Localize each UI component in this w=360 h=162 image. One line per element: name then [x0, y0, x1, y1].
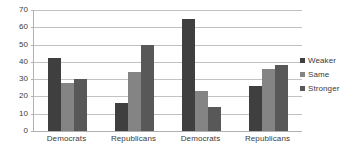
y-tick-label: 10 [19, 110, 28, 118]
chart-legend: WeakerSameStronger [300, 54, 360, 96]
y-tick-label: 0 [23, 127, 28, 135]
bar [128, 72, 141, 131]
y-tick-mark [31, 131, 34, 132]
y-tick-label: 60 [19, 23, 28, 31]
x-category-label: Democrats [33, 134, 100, 143]
bar [74, 79, 87, 131]
bar-chart: 010203040506070 DemocratsRepublicansDemo… [0, 0, 360, 162]
y-tick-label: 40 [19, 58, 28, 66]
bar [195, 91, 208, 131]
bar-group [34, 10, 101, 131]
bar [141, 45, 154, 131]
x-category-label: Republicans [234, 134, 301, 143]
bar-group [235, 10, 302, 131]
plot-area [33, 10, 302, 131]
legend-item[interactable]: Stronger [300, 82, 360, 95]
legend-swatch-icon [300, 72, 305, 77]
legend-label: Same [308, 70, 329, 79]
bar [208, 107, 221, 131]
legend-label: Weaker [308, 56, 336, 65]
legend-item[interactable]: Weaker [300, 54, 360, 67]
bar [48, 58, 61, 131]
x-category-label: Republicans [100, 134, 167, 143]
legend-swatch-icon [300, 58, 305, 63]
x-category-label: Democrats [167, 134, 234, 143]
legend-item[interactable]: Same [300, 68, 360, 81]
y-axis: 010203040506070 [0, 0, 31, 162]
axis-baseline [34, 131, 302, 132]
y-tick-label: 30 [19, 75, 28, 83]
bar-groups [34, 10, 302, 131]
y-tick-label: 70 [19, 6, 28, 14]
bar [249, 86, 262, 131]
bar-group [101, 10, 168, 131]
bar-group [168, 10, 235, 131]
bar [275, 65, 288, 131]
legend-swatch-icon [300, 86, 305, 91]
y-tick-label: 50 [19, 41, 28, 49]
bar [262, 69, 275, 131]
x-axis: DemocratsRepublicansDemocratsRepublicans [33, 134, 301, 148]
bar [61, 83, 74, 131]
bar [115, 103, 128, 131]
y-tick-label: 20 [19, 92, 28, 100]
bar [182, 19, 195, 131]
legend-label: Stronger [308, 84, 339, 93]
